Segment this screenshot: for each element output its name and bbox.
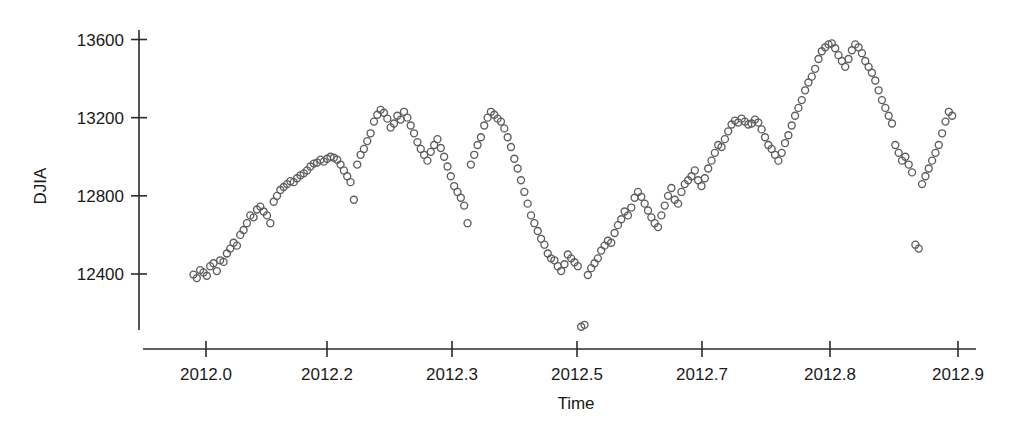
data-point <box>267 220 274 227</box>
x-tick-label: 2012.8 <box>804 365 856 384</box>
data-point <box>775 157 782 164</box>
x-tick-label: 2012.0 <box>180 365 232 384</box>
data-point <box>895 149 902 156</box>
data-point <box>939 130 946 137</box>
x-axis-title: Time <box>557 394 594 413</box>
data-point <box>384 115 391 122</box>
data-point <box>441 153 448 160</box>
data-point <box>354 161 361 168</box>
djia-scatter-figure: 12400128001320013600 DJIA 2012.02012.220… <box>0 0 1029 445</box>
data-point <box>788 122 795 129</box>
data-point <box>698 183 705 190</box>
data-point <box>561 261 568 268</box>
y-tick-label: 12800 <box>77 187 124 206</box>
data-point <box>721 136 728 143</box>
data-point <box>611 229 618 236</box>
data-point <box>678 188 685 195</box>
plot-canvas: 12400128001320013600 DJIA 2012.02012.220… <box>0 0 1029 445</box>
data-point <box>888 120 895 127</box>
data-point <box>919 181 926 188</box>
y-tick-label: 13200 <box>77 109 124 128</box>
data-point <box>524 200 531 207</box>
data-point <box>350 196 357 203</box>
data-point <box>929 157 936 164</box>
data-point <box>711 149 718 156</box>
data-point <box>708 157 715 164</box>
data-point <box>471 151 478 158</box>
data-point <box>885 112 892 119</box>
data-point <box>802 87 809 94</box>
data-point <box>641 200 648 207</box>
data-point <box>892 142 899 149</box>
x-tick-label: 2012.9 <box>932 365 984 384</box>
data-point <box>213 268 220 275</box>
data-point <box>778 149 785 156</box>
data-point <box>925 165 932 172</box>
data-point <box>725 128 732 135</box>
data-point <box>504 134 511 141</box>
y-tick-group: 12400128001320013600 <box>77 31 147 285</box>
data-point <box>661 202 668 209</box>
data-point <box>477 134 484 141</box>
data-point <box>447 173 454 180</box>
data-point <box>347 179 354 186</box>
data-point <box>360 145 367 152</box>
data-point <box>411 130 418 137</box>
data-point <box>808 73 815 80</box>
data-point <box>872 77 879 84</box>
x-tick-label: 2012.2 <box>301 365 353 384</box>
data-point <box>878 97 885 104</box>
data-point <box>842 63 849 70</box>
data-point <box>858 50 865 57</box>
data-point <box>367 130 374 137</box>
data-point <box>461 202 468 209</box>
data-point <box>364 138 371 145</box>
scatter-points-layer <box>190 40 956 330</box>
data-point <box>705 165 712 172</box>
data-point <box>407 122 414 129</box>
data-point <box>464 220 471 227</box>
data-point <box>658 212 665 219</box>
data-point <box>531 220 538 227</box>
data-point <box>782 140 789 147</box>
data-point <box>758 126 765 133</box>
data-point <box>845 56 852 63</box>
data-point <box>882 104 889 111</box>
x-tick-label: 2012.3 <box>426 365 478 384</box>
data-point <box>434 136 441 143</box>
y-axis-title: DJIA <box>31 167 50 205</box>
data-point <box>457 194 464 201</box>
y-tick-label: 13600 <box>77 31 124 50</box>
data-point <box>243 220 250 227</box>
data-point <box>518 177 525 184</box>
data-point <box>618 216 625 223</box>
data-point <box>815 56 822 63</box>
x-tick-group: 2012.02012.22012.32012.52012.72012.82012… <box>180 341 984 384</box>
data-point <box>507 143 514 150</box>
data-point <box>868 69 875 76</box>
data-point <box>875 87 882 94</box>
data-point <box>761 134 768 141</box>
x-tick-label: 2012.5 <box>551 365 603 384</box>
data-point <box>942 118 949 125</box>
data-point <box>444 163 451 170</box>
data-point <box>414 139 421 146</box>
data-point <box>795 104 802 111</box>
data-point <box>665 192 672 199</box>
data-point <box>932 149 939 156</box>
x-axis: 2012.02012.22012.32012.52012.72012.82012… <box>143 341 984 413</box>
data-point <box>514 165 521 172</box>
data-point <box>427 148 434 155</box>
data-point <box>501 125 508 132</box>
data-point <box>534 228 541 235</box>
data-point <box>481 122 488 129</box>
data-point <box>511 155 518 162</box>
data-point <box>935 142 942 149</box>
data-point <box>584 271 591 278</box>
data-point <box>785 132 792 139</box>
data-point <box>437 144 444 151</box>
data-point <box>905 161 912 168</box>
data-point <box>645 207 652 214</box>
data-point <box>628 204 635 211</box>
y-axis: 12400128001320013600 DJIA <box>31 30 147 330</box>
